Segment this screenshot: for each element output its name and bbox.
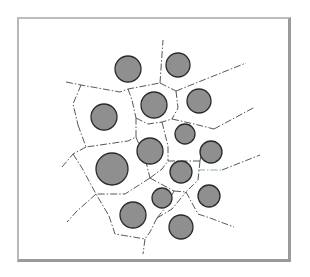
particle-circle	[152, 188, 172, 208]
particle-circle	[96, 153, 128, 185]
particle-circle	[141, 92, 167, 118]
particle-circle	[198, 185, 220, 207]
particle-circle	[170, 161, 192, 183]
particle-circle	[175, 124, 195, 144]
particle-circle	[137, 138, 163, 164]
particle-circle	[187, 89, 211, 113]
particle-circle	[115, 56, 141, 82]
particle-circle	[120, 202, 146, 228]
particle-circle	[200, 141, 222, 163]
particle-circle	[91, 104, 117, 130]
particle-circle	[169, 215, 193, 239]
voronoi-diagram	[0, 0, 310, 277]
particle-circle	[166, 53, 190, 77]
